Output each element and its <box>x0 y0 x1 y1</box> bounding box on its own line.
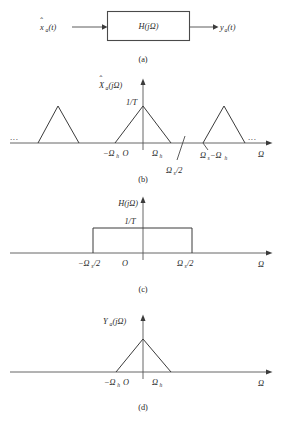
panel-b: Ω X ˆ a (jΩ) 1/T ... ... <box>10 75 273 184</box>
panel-b-triangle-left <box>38 106 79 143</box>
panel-b-tick-neg-omega-h: −Ω h <box>103 149 119 159</box>
svg-text:Ω: Ω <box>200 151 206 160</box>
panel-d-tick-omega-h-sub: h <box>159 382 162 388</box>
panel-a-input-label: x ˆ a (t) <box>39 17 56 33</box>
panel-c-origin-label: O <box>122 259 128 268</box>
input-arrowhead-icon <box>102 24 108 29</box>
panel-b-ellipsis-left: ... <box>10 132 19 142</box>
panel-c: Ω H(jΩ) 1/T −Ω s /2 O Ω s /2 <box>10 197 273 295</box>
panel-d-x-axis-label: Ω <box>258 379 264 388</box>
svg-text:−Ω: −Ω <box>104 378 116 387</box>
panel-a: x ˆ a (t) H(jΩ) y a (t) (a) <box>39 12 236 65</box>
panel-c-caption: (c) <box>138 285 147 294</box>
panel-b-tick-omega-h: Ω h <box>152 149 162 159</box>
panel-b-tick-omega-s-minus-omega-h: Ω s −Ω h <box>200 151 227 161</box>
panel-c-tick-neg-omega-s-half: −Ω s /2 <box>78 259 100 269</box>
panel-a-caption: (a) <box>138 55 147 64</box>
panel-b-annotation-omega-s-half: Ω s /2 <box>166 166 182 176</box>
panel-b-annotation-leader <box>177 136 185 160</box>
svg-text:−Ω: −Ω <box>210 151 222 160</box>
panel-d: Ω Y a (jΩ) −Ω h O Ω h <box>10 315 273 413</box>
figure-root: x ˆ a (t) H(jΩ) y a (t) (a) <box>0 0 286 428</box>
panel-b-tick-neg-omega-h-sub: h <box>116 153 119 159</box>
panel-d-y-label-base: Y <box>103 317 109 326</box>
svg-text:−Ω: −Ω <box>78 259 90 268</box>
panel-d-tick-neg-omega-h: −Ω h <box>104 378 120 388</box>
panel-d-tick-omega-h: Ω h <box>152 378 162 388</box>
panel-b-ellipsis-right: ... <box>248 132 257 142</box>
svg-text:Ω: Ω <box>152 149 158 158</box>
panel-d-tick-neg-omega-h-sub: h <box>117 382 120 388</box>
panel-b-y-axis-arrowhead-icon <box>141 79 146 86</box>
panel-d-y-axis-arrowhead-icon <box>141 315 146 322</box>
panel-b-triangle-right <box>203 106 245 143</box>
svg-text:/2: /2 <box>93 259 100 268</box>
svg-text:/2: /2 <box>186 259 193 268</box>
panel-d-y-label-arg: (jΩ) <box>112 317 126 326</box>
panel-c-y-axis-arrowhead-icon <box>141 197 146 204</box>
panel-c-x-axis-arrowhead-icon <box>266 251 273 256</box>
svg-text:Ω: Ω <box>152 378 158 387</box>
svg-text:−Ω: −Ω <box>103 149 115 158</box>
panel-b-tick-omega-h-sub: h <box>159 153 162 159</box>
input-hat-icon: ˆ <box>40 17 43 26</box>
panel-c-x-axis-label: Ω <box>258 260 264 269</box>
panel-c-y-label: H(jΩ) <box>117 199 138 208</box>
output-label-base: y <box>219 23 224 32</box>
svg-text:/2: /2 <box>175 166 182 175</box>
panel-d-caption: (d) <box>138 403 148 412</box>
output-label-arg: (t) <box>228 23 236 32</box>
signal-processing-figure: x ˆ a (t) H(jΩ) y a (t) (a) <box>0 0 286 428</box>
panel-d-origin-label: O <box>123 378 129 387</box>
panel-d-triangle <box>116 339 171 372</box>
panel-b-caption: (b) <box>138 175 148 184</box>
svg-text:Ω: Ω <box>166 166 172 175</box>
output-arrowhead-icon <box>213 24 219 29</box>
svg-text:Ω: Ω <box>177 259 183 268</box>
panel-d-y-label: Y a (jΩ) <box>103 317 126 327</box>
block-label: H(jΩ) <box>138 22 159 31</box>
panel-b-x-axis-label: Ω <box>258 150 264 159</box>
panel-a-output-label: y a (t) <box>219 23 236 33</box>
panel-b-y-label-hat-icon: ˆ <box>100 75 103 84</box>
panel-c-rect-response <box>93 228 192 253</box>
panel-c-tick-omega-s-half: Ω s /2 <box>177 259 193 269</box>
panel-b-x-axis-arrowhead-icon <box>266 141 273 146</box>
panel-b-tick-leader-right <box>203 143 208 150</box>
panel-d-x-axis-arrowhead-icon <box>266 370 273 375</box>
panel-b-peak-label: 1/T <box>126 98 138 107</box>
svg-text:h: h <box>224 155 227 161</box>
panel-b-origin-label: O <box>123 149 129 158</box>
panel-c-peak-label: 1/T <box>124 217 136 226</box>
panel-b-y-label-arg: (jΩ) <box>108 81 122 90</box>
input-label-arg: (t) <box>48 23 56 32</box>
panel-b-y-label: X ˆ a (jΩ) <box>98 75 122 91</box>
